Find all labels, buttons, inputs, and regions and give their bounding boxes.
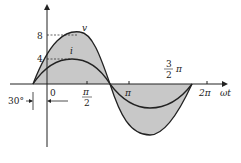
phase-arrow-right-icon <box>47 99 51 103</box>
x-tick-three-half-den: 2 <box>166 70 172 80</box>
x-tick-pi-half-den: 2 <box>84 98 90 108</box>
x-tick-two-pi: 2π <box>198 88 212 98</box>
x-tick-three-half-pi: π <box>175 64 183 74</box>
y-axis-arrow-icon <box>44 4 50 10</box>
i-label: i <box>70 46 73 56</box>
x-axis-arrow-icon <box>222 81 228 87</box>
y-tick-8: 8 <box>37 31 43 41</box>
y-tick-4: 4 <box>37 54 43 64</box>
phase-label: 30° <box>8 96 24 106</box>
x-tick-zero: 0 <box>50 88 56 98</box>
waveform-diagram: v i 8 4 0 π 2 π 3 2 π 2π ωt 30° <box>0 0 241 163</box>
x-axis-label: ωt <box>220 88 231 98</box>
x-tick-three-half-num: 3 <box>166 59 172 69</box>
v-label: v <box>82 23 87 33</box>
phase-arrow-left-icon <box>29 99 33 103</box>
x-tick-pi-half-num: π <box>82 87 90 97</box>
x-tick-pi: π <box>124 88 132 98</box>
